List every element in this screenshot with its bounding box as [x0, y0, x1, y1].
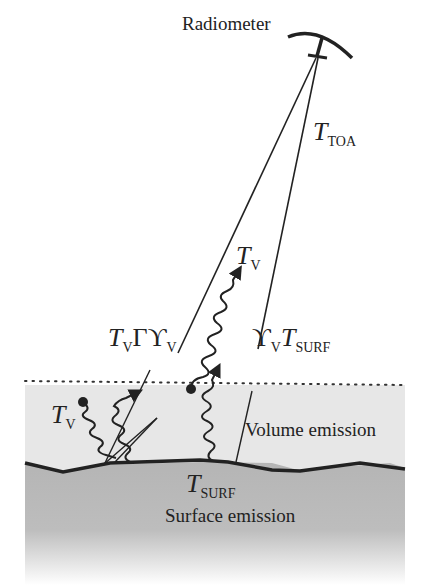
surface-emission-label: Surface emission: [165, 506, 295, 525]
tsurf-T: T: [281, 323, 295, 352]
volume-emission-label: Volume emission: [245, 420, 376, 439]
t-surf-main: T: [186, 469, 200, 498]
t-v-left-main: T: [51, 400, 65, 429]
gamma-symbol: Γ: [133, 323, 148, 352]
upsilon-tsurf-label: ϒVTSURF: [252, 325, 330, 355]
t-surf-sub: SURF: [200, 486, 235, 501]
upsilon-symbol: ϒ: [148, 323, 167, 352]
upsilon-sub: V: [166, 340, 176, 355]
view-line-left: [178, 58, 316, 353]
t-surf-label: TSURF: [186, 471, 236, 501]
t-v-top-sub: V: [250, 258, 260, 273]
upsilon-right-sub: V: [271, 340, 281, 355]
volume-top-dotted-line: [25, 381, 405, 385]
t-toa-main: T: [313, 117, 327, 146]
upsilon-symbol-right: ϒ: [252, 323, 271, 352]
t-v-top-label: TV: [236, 243, 261, 273]
t-toa-label: TTOA: [313, 119, 356, 149]
radiometer-stem: [317, 38, 322, 56]
wave-middle-up: [191, 270, 239, 389]
view-line-right: [258, 58, 318, 349]
t-toa-sub: TOA: [327, 134, 356, 149]
radiometer-base: [308, 55, 327, 58]
t-gamma-upsilon-T: T: [108, 323, 122, 352]
t-v-left-sub: V: [65, 417, 75, 432]
t-v-left-label: TV: [51, 402, 76, 432]
t-v-top-main: T: [236, 241, 250, 270]
radiometer-label: Radiometer: [182, 14, 271, 33]
t-gamma-upsilon-label: TVΓϒV: [108, 325, 177, 355]
t-gamma-upsilon-T-sub: V: [122, 340, 132, 355]
tsurf-sub: SURF: [295, 340, 330, 355]
